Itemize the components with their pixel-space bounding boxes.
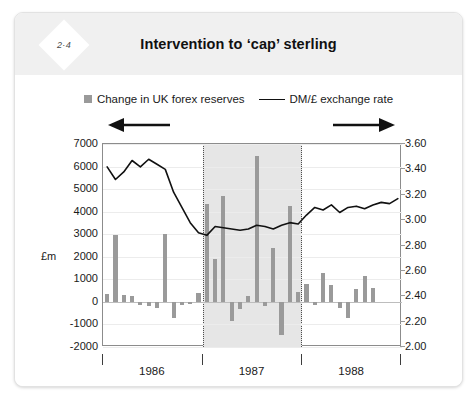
left-axis-labels: 70006000500040003000200010000-1000-2000	[46, 143, 98, 346]
right-arrow-icon	[333, 118, 395, 132]
right-axis-tick-label: 2.00	[405, 340, 443, 352]
right-axis-tick-label: 3.60	[405, 137, 443, 149]
right-axis-labels: 3.603.403.203.002.802.602.402.202.00	[405, 143, 445, 346]
left-axis-tick-label: 5000	[52, 182, 98, 194]
legend-item-line: DM/£ exchange rate	[259, 93, 394, 105]
right-axis-tick-label: 2.20	[405, 315, 443, 327]
right-axis-tick-label: 2.80	[405, 239, 443, 251]
page-title: Intervention to ‘cap’ sterling	[15, 13, 462, 75]
x-axis-year-label: 1988	[338, 365, 364, 377]
line-series	[103, 144, 402, 347]
right-axis-tick	[400, 270, 405, 271]
right-axis-tick-label: 2.40	[405, 289, 443, 301]
exchange-rate-polyline	[107, 159, 398, 235]
legend-label-bars: Change in UK forex reserves	[97, 93, 245, 105]
chart-card: 2·4 Intervention to ‘cap’ sterling Chang…	[14, 12, 463, 387]
x-axis-tick	[400, 354, 401, 365]
left-axis-tick-label: 0	[52, 295, 98, 307]
right-axis-tick	[400, 194, 405, 195]
left-axis-tick-label: 4000	[52, 205, 98, 217]
square-swatch-icon	[84, 95, 92, 103]
arrows-svg	[102, 115, 401, 135]
left-axis-tick-label: -1000	[52, 317, 98, 329]
plot-area	[102, 143, 401, 346]
x-axis: 198619871988	[102, 354, 401, 380]
right-axis-tick	[400, 321, 405, 322]
right-axis-tick	[400, 168, 405, 169]
x-axis-tick	[102, 354, 103, 365]
right-axis-tick-label: 2.60	[405, 264, 443, 276]
x-axis-year-label: 1987	[239, 365, 265, 377]
x-axis-tick	[301, 354, 302, 365]
right-axis-tick	[400, 245, 405, 246]
right-axis-tick	[400, 143, 405, 144]
left-axis-unit-label: £m	[41, 250, 56, 262]
right-axis-tick-label: 3.00	[405, 213, 443, 225]
chart-legend: Change in UK forex reserves DM/£ exchang…	[15, 91, 462, 107]
left-axis-tick-label: 6000	[52, 160, 98, 172]
left-axis-tick-label: 7000	[52, 137, 98, 149]
right-axis-tick	[400, 295, 405, 296]
left-arrow-icon	[108, 118, 170, 132]
right-axis-tick	[400, 219, 405, 220]
right-axis-tick-label: 3.20	[405, 188, 443, 200]
axis-direction-arrows	[102, 115, 401, 135]
gridline	[103, 347, 402, 348]
legend-label-line: DM/£ exchange rate	[290, 93, 394, 105]
line-swatch-icon	[259, 99, 285, 100]
legend-item-bars: Change in UK forex reserves	[84, 93, 245, 105]
x-axis-tick	[202, 354, 203, 365]
left-axis-tick-label: 2000	[52, 250, 98, 262]
x-axis-year-label: 1986	[139, 365, 165, 377]
chart-body: Change in UK forex reserves DM/£ exchang…	[15, 75, 462, 386]
right-axis-tick	[400, 346, 405, 347]
left-axis-tick-label: 3000	[52, 227, 98, 239]
left-axis-tick-label: 1000	[52, 272, 98, 284]
right-axis-tick-label: 3.40	[405, 162, 443, 174]
left-axis-tick-label: -2000	[52, 340, 98, 352]
